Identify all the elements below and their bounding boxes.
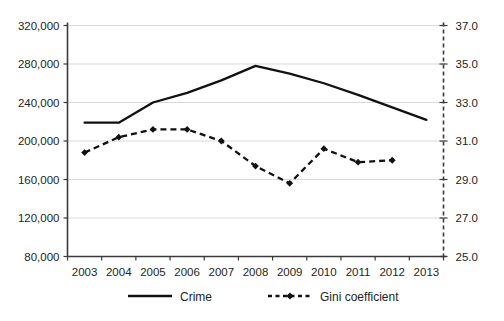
y-axis-right-tick-label: 31.0 — [456, 135, 478, 147]
y-axis-left-tick-label: 280,000 — [18, 58, 60, 70]
y-axis-left-tick-label: 240,000 — [18, 97, 60, 109]
y-axis-right-tick-label: 27.0 — [456, 212, 478, 224]
x-axis-tick-label: 2004 — [106, 266, 132, 278]
x-axis-tick-label: 2006 — [174, 266, 200, 278]
x-axis-tick-label: 2013 — [414, 266, 440, 278]
y-axis-right-tick-label: 29.0 — [456, 174, 478, 186]
x-axis-tick-label: 2008 — [243, 266, 269, 278]
x-axis-tick-label: 2003 — [72, 266, 98, 278]
y-axis-left-tick-label: 200,000 — [18, 135, 60, 147]
chart-container: 80,000120,000160,000200,000240,000280,00… — [0, 0, 504, 321]
y-axis-right-tick-label: 25.0 — [456, 251, 478, 263]
y-axis-left-tick-label: 160,000 — [18, 174, 60, 186]
x-axis-tick-label: 2005 — [140, 266, 166, 278]
y-axis-left-tick-label: 120,000 — [18, 212, 60, 224]
legend-label-gini: Gini coefficient — [320, 290, 399, 304]
y-axis-left-tick-label: 80,000 — [24, 251, 59, 263]
x-axis-tick-label: 2012 — [379, 266, 405, 278]
y-axis-right-tick-label: 35.0 — [456, 58, 478, 70]
x-axis-tick-label: 2007 — [209, 266, 235, 278]
legend-label-crime: Crime — [180, 290, 212, 304]
x-axis-tick-label: 2009 — [277, 266, 303, 278]
y-axis-left-tick-label: 320,000 — [18, 20, 60, 32]
x-axis-tick-label: 2010 — [311, 266, 337, 278]
y-axis-right-tick-label: 33.0 — [456, 97, 478, 109]
y-axis-right-tick-label: 37.0 — [456, 20, 478, 32]
x-axis-tick-label: 2011 — [346, 266, 371, 278]
line-chart: 80,000120,000160,000200,000240,000280,00… — [0, 0, 504, 321]
